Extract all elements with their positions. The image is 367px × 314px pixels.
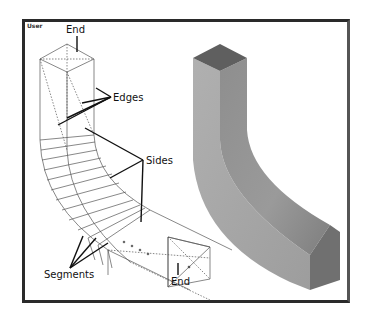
illustration: End Edges Sides Segments End bbox=[0, 0, 367, 314]
label-end-top: End bbox=[66, 24, 85, 35]
label-sides: Sides bbox=[146, 155, 173, 166]
label-edges: Edges bbox=[113, 92, 143, 103]
shaded-model bbox=[193, 44, 340, 290]
label-segments: Segments bbox=[44, 269, 94, 280]
label-end-bottom: End bbox=[171, 276, 190, 287]
